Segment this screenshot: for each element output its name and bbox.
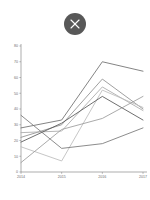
y-tick-label: 50	[14, 92, 18, 96]
y-tick-label: 0	[16, 170, 18, 174]
close-x-icon	[64, 13, 86, 35]
y-tick-label: 20	[14, 139, 18, 143]
y-axis: 01020304050607080	[14, 44, 21, 174]
x-tick-label: 2016	[98, 175, 106, 179]
x-tick-label: 2017	[139, 175, 147, 179]
x-tick-label: 2015	[58, 175, 66, 179]
y-tick-label: 30	[14, 123, 18, 127]
y-tick-label: 60	[14, 76, 18, 80]
chart-popup: 01020304050607080 2014201520162017	[0, 0, 150, 200]
y-tick-label: 70	[14, 60, 18, 64]
series-line	[21, 96, 143, 162]
y-tick-label: 40	[14, 107, 18, 111]
series-line	[21, 62, 143, 128]
close-button-row	[0, 9, 150, 39]
series-layer	[21, 62, 143, 163]
close-button[interactable]	[64, 13, 86, 35]
x-axis: 2014201520162017	[17, 172, 147, 179]
y-tick-label: 80	[14, 44, 18, 48]
series-line	[21, 90, 143, 161]
series-line	[21, 79, 143, 137]
x-tick-label: 2014	[17, 175, 25, 179]
chart-canvas: 01020304050607080 2014201520162017	[0, 38, 150, 186]
line-chart: 01020304050607080 2014201520162017	[0, 38, 150, 186]
y-tick-label: 10	[14, 155, 18, 159]
